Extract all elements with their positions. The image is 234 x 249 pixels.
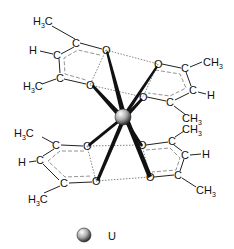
svg-text:C: C — [174, 169, 182, 181]
svg-text:O: O — [92, 175, 101, 187]
svg-text:CH3: CH3 — [203, 56, 223, 70]
legend-uranium-sphere — [77, 228, 91, 242]
svg-text:C: C — [36, 154, 44, 166]
uranium-atom — [115, 109, 131, 125]
svg-text:H: H — [18, 156, 26, 168]
svg-text:O: O — [146, 171, 155, 183]
svg-text:O: O — [83, 140, 92, 152]
svg-text:H: H — [202, 148, 210, 160]
svg-text:H3C: H3C — [23, 80, 43, 94]
legend-label: U — [108, 230, 116, 242]
svg-text:H: H — [29, 44, 37, 56]
svg-text:C: C — [56, 72, 64, 84]
svg-text:H: H — [207, 89, 215, 101]
svg-text:C: C — [72, 37, 80, 49]
svg-text:O: O — [138, 139, 147, 151]
ring-upper-right: O C CH3 C H O C CH3 — [139, 56, 223, 126]
svg-text:C: C — [181, 149, 189, 161]
svg-text:H3C: H3C — [28, 193, 48, 207]
svg-text:H3C: H3C — [33, 15, 53, 29]
svg-text:C: C — [60, 177, 68, 189]
molecule-diagram: H3C H C C C O O H3C O C CH3 C H O C CH3 … — [0, 0, 234, 249]
svg-text:C: C — [168, 135, 176, 147]
svg-text:O: O — [102, 44, 111, 56]
svg-text:H3C: H3C — [14, 127, 34, 141]
svg-text:C: C — [166, 96, 174, 108]
ring-lower-right: CH3 O C C H O C CH3 — [138, 123, 216, 198]
svg-text:C: C — [52, 139, 60, 151]
svg-text:C: C — [181, 62, 189, 74]
svg-text:O: O — [154, 58, 163, 70]
legend: U — [77, 228, 116, 242]
svg-text:O: O — [139, 91, 148, 103]
ring-lower-left: H3C C O H C C O H3C — [14, 127, 101, 207]
svg-text:C: C — [53, 49, 61, 61]
svg-text:O: O — [86, 79, 95, 91]
svg-text:CH3: CH3 — [196, 184, 216, 198]
svg-text:C: C — [189, 84, 197, 96]
